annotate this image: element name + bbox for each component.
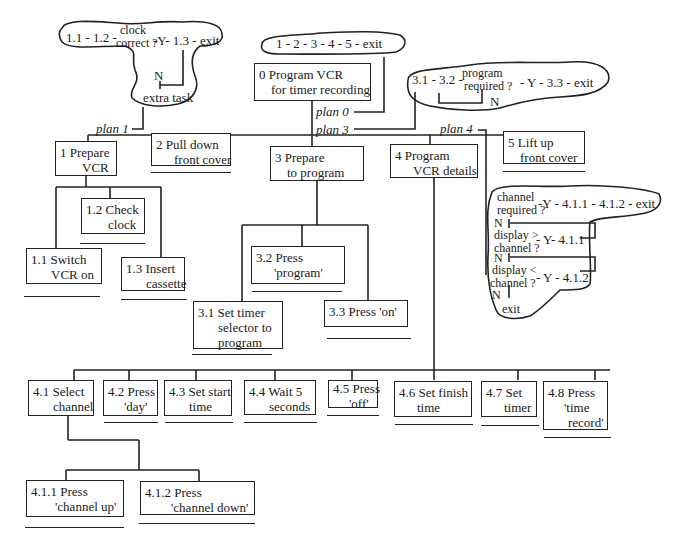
task-1-line2: VCR xyxy=(60,160,112,175)
task-3-3-line1: 3.3 Press 'on' xyxy=(329,304,403,319)
task-box-3-1: 3.1 Set timer selector to program xyxy=(193,301,283,349)
underline-task-4-5 xyxy=(327,415,379,416)
task-4-8-line3: record' xyxy=(548,415,603,430)
underline-task-4-4 xyxy=(244,422,317,423)
task-box-4-3: 4.3 Set start time xyxy=(164,380,232,416)
task-1-3-line2: cassette xyxy=(126,276,180,291)
task-3-2-line2: 'program' xyxy=(256,265,340,280)
plan-0-label: plan 0 xyxy=(316,104,349,120)
task-4-1-line2: channel xyxy=(33,399,89,414)
task-4-5-line2: 'off' xyxy=(333,396,373,411)
task-4-1-line1: 4.1 Select xyxy=(33,384,89,399)
plan-3-no: N xyxy=(490,94,499,109)
underline-task-5 xyxy=(503,171,585,172)
task-4-5-line1: 4.5 Press xyxy=(333,381,373,396)
task-1-1-line1: 1.1 Switch xyxy=(31,252,97,267)
task-4-line1: 4 Program xyxy=(395,148,473,163)
plan-3-label: plan 3 xyxy=(316,122,349,138)
task-box-4-4: 4.4 Wait 5 seconds xyxy=(244,380,316,415)
task-1-2-line2: clock xyxy=(86,217,140,232)
plan-41-cond1-yes: -Y - 4.1.1 - 4.1.2 - exit xyxy=(538,196,655,211)
plan-3-seq: 3.1 - 3.2 - xyxy=(412,72,463,87)
underline-task-4-8 xyxy=(544,437,611,438)
task-box-1-1: 1.1 Switch VCR on xyxy=(26,248,102,284)
underline-task-3-1 xyxy=(192,354,272,355)
underline-task-1-2 xyxy=(80,243,145,244)
plan-1-seq: 1.1 - 1.2 - xyxy=(66,30,117,45)
task-box-3: 3 Prepare to program xyxy=(270,146,364,181)
task-1-1-line2: VCR on xyxy=(31,267,97,282)
task-4-6-line1: 4.6 Set finish xyxy=(399,385,467,400)
plan-41-exit: exit xyxy=(502,303,520,316)
task-4-1-1-line1: 4.1.1 Press xyxy=(31,484,119,499)
plan-1-extra-task: extra task xyxy=(143,90,193,105)
task-3-line1: 3 Prepare xyxy=(275,150,359,165)
underline-task-1-3 xyxy=(121,299,187,300)
task-box-4-7: 4.7 Set timer xyxy=(481,381,537,417)
task-box-2: 2 Pull down front cover xyxy=(151,133,231,166)
plan-0-text: 1 - 2 - 3 - 4 - 5 - exit xyxy=(276,36,382,51)
task-3-2-line1: 3.2 Press xyxy=(256,250,340,265)
task-4-2-line1: 4.2 Press xyxy=(108,384,153,399)
task-box-0: 0 Program VCR for timer recording xyxy=(254,63,371,101)
underline-task-4-7 xyxy=(481,425,539,426)
task-4-8-line1: 4.8 Press xyxy=(548,385,603,400)
task-4-7-line1: 4.7 Set xyxy=(486,385,532,400)
plan-3-yes-branch: - Y - 3.3 - exit xyxy=(520,75,593,90)
plan-41-cond2-yes: - Y- 4.1.1 xyxy=(536,232,585,247)
plan-3-condition-2: required ? xyxy=(464,80,512,93)
underline-task-3-2 xyxy=(252,291,342,292)
task-4-7-line2: timer xyxy=(486,400,532,415)
task-4-1-2-line1: 4.1.2 Press xyxy=(145,485,250,500)
task-0-line2: for timer recording xyxy=(259,82,366,97)
task-box-4-5: 4.5 Press 'off' xyxy=(328,380,378,408)
plan-1-no: N xyxy=(154,68,163,83)
task-box-3-2: 3.2 Press 'program' xyxy=(251,246,345,284)
task-4-4-line1: 4.4 Wait 5 xyxy=(249,384,311,399)
underline-task-4-1-1 xyxy=(25,527,124,528)
task-box-1-3: 1.3 Insert cassette xyxy=(121,257,185,291)
task-0-line1: 0 Program VCR xyxy=(259,67,366,82)
task-5-line2: front cover xyxy=(508,150,580,165)
plan-41-cond3-yes: - Y - 4.1.2 xyxy=(536,270,589,285)
task-1-line1: 1 Prepare xyxy=(60,145,112,160)
task-box-4-1-1: 4.1.1 Press 'channel up' xyxy=(26,480,124,517)
task-2-line2: front cover xyxy=(156,152,226,167)
task-1-2-line1: 1.2 Check xyxy=(86,202,140,217)
task-box-4-1: 4.1 Select channel xyxy=(28,380,94,416)
task-box-5: 5 Lift up front cover xyxy=(503,131,585,164)
plan-41-no-3: N xyxy=(492,289,501,302)
plan-1-label: plan 1 xyxy=(96,121,129,137)
task-3-1-line1: 3.1 Set timer xyxy=(198,305,278,320)
underline-task-4-1-2 xyxy=(139,523,255,524)
task-4-line2: VCR details xyxy=(395,163,473,178)
task-4-8-line2: 'time xyxy=(548,400,603,415)
underline-task-1-1 xyxy=(24,296,100,297)
task-4-1-2-line2: 'channel down' xyxy=(145,500,250,515)
task-box-4-1-2: 4.1.2 Press 'channel down' xyxy=(140,481,255,515)
task-4-6-line2: time xyxy=(399,400,467,415)
task-2-line1: 2 Pull down xyxy=(156,137,226,152)
task-4-1-1-line2: 'channel up' xyxy=(31,499,119,514)
task-box-1-2: 1.2 Check clock xyxy=(81,198,145,234)
underline-task-3-3 xyxy=(327,338,411,339)
task-4-2-line2: 'day' xyxy=(108,399,153,414)
task-3-1-line3: program xyxy=(198,335,278,350)
plan-1-condition-2: correct ? xyxy=(116,37,158,50)
task-4-4-line2: seconds xyxy=(249,399,311,414)
task-box-4-8: 4.8 Press 'time record' xyxy=(543,381,608,430)
task-box-4: 4 Program VCR details xyxy=(390,144,478,178)
task-4-3-line2: time xyxy=(169,399,227,414)
underline-task-2 xyxy=(151,172,231,173)
task-1-3-line1: 1.3 Insert xyxy=(126,261,180,276)
plan-1-yes-branch: -Y- 1.3 - exit xyxy=(153,33,219,48)
task-3-line2: to program xyxy=(275,165,359,180)
task-3-1-line2: selector to xyxy=(198,320,278,335)
underline-task-4-3 xyxy=(165,422,233,423)
underline-task-4-2 xyxy=(104,422,158,423)
task-box-4-2: 4.2 Press 'day' xyxy=(103,380,158,416)
underline-task-4-6 xyxy=(395,424,473,425)
task-5-line1: 5 Lift up xyxy=(508,135,580,150)
task-box-4-6: 4.6 Set finish time xyxy=(394,381,472,417)
plan-4-label: plan 4 xyxy=(440,121,473,137)
